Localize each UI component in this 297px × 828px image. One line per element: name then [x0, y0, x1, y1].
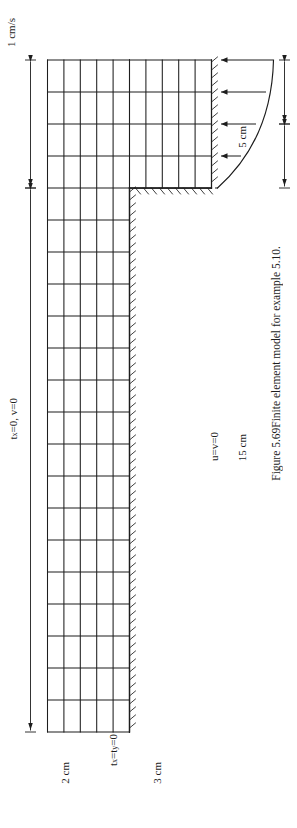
finite-element-mesh-diagram: [0, 0, 297, 828]
dimension-label-5cm: 5 cm: [237, 126, 249, 148]
dimension-label-3cm: 3 cm: [152, 762, 164, 784]
hatched-wall-boundary: [129, 187, 135, 732]
left-boundary-condition-label: tx=0, v=0: [8, 398, 20, 439]
traction-eq: =t: [107, 750, 119, 759]
traction-symbol: t: [7, 436, 19, 439]
velocity-profile-group: [215, 60, 273, 188]
figure-canvas: [0, 0, 297, 828]
dimension-arrow: [25, 188, 35, 732]
hatched-wall-boundary: [129, 188, 212, 194]
dimension-arrow: [25, 60, 35, 188]
traction-subscript: x: [10, 432, 19, 436]
bottom-boundary-condition-label: tx=ty=0: [108, 734, 120, 766]
bottom-bc-rest: =0: [107, 734, 119, 746]
inlet-velocity-label: 1 cm/s: [6, 18, 18, 47]
mesh-wide-block: [47, 60, 129, 732]
right-boundary-condition-label: u=v=0: [209, 432, 221, 461]
figure-caption: Figure 5.69Finite element model for exam…: [270, 246, 282, 481]
mesh-step-corner: [129, 188, 211, 732]
dimension-label-15cm: 15 cm: [237, 434, 249, 461]
dimension-arrow: [279, 124, 289, 188]
figure-caption-number: Figure 5.69: [270, 428, 282, 481]
dimension-arrow: [279, 60, 289, 124]
hatched-wall-boundary: [211, 57, 217, 188]
traction-x-symbol: t: [107, 763, 119, 766]
traction-y-subscript: y: [110, 746, 119, 750]
mesh-narrow-block: [129, 60, 211, 188]
figure-caption-text: Finite element model for example 5.10.: [270, 246, 282, 428]
dimension-label-2cm: 2 cm: [60, 762, 72, 784]
left-bc-rest: =0, v=0: [7, 398, 19, 432]
traction-x-subscript: x: [110, 759, 119, 763]
